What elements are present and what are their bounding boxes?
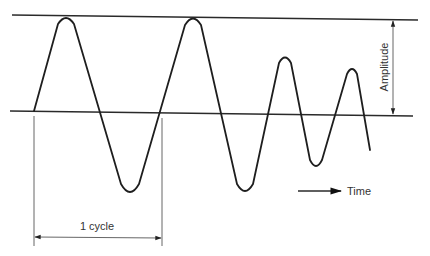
waveform-diagram: Amplitude 1 cycle Time xyxy=(0,0,430,256)
cycle-arrow xyxy=(35,237,161,238)
cycle-label: 1 cycle xyxy=(80,220,114,232)
waveform xyxy=(34,18,370,192)
time-label: Time xyxy=(347,185,371,197)
peak-reference-line xyxy=(12,15,418,20)
baseline xyxy=(10,111,413,116)
amplitude-label: Amplitude xyxy=(378,43,390,92)
